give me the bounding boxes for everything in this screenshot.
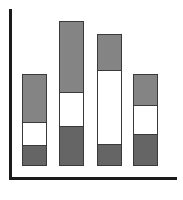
bar-3: [97, 34, 122, 166]
bar-segment-top: [23, 75, 46, 123]
bar-2: [59, 21, 84, 166]
bar-segment-top: [98, 35, 121, 71]
bar-1: [22, 74, 47, 166]
stacked-bar-chart: [0, 0, 183, 200]
bar-segment-top: [134, 75, 157, 106]
bar-segment-bottom: [134, 135, 157, 165]
y-axis: [9, 9, 12, 180]
x-axis: [9, 177, 177, 180]
bar-segment-middle: [134, 106, 157, 135]
bar-segment-top: [60, 22, 83, 93]
bar-segment-bottom: [98, 145, 121, 165]
bar-segment-bottom: [23, 146, 46, 165]
bar-segment-bottom: [60, 127, 83, 165]
bar-segment-middle: [60, 93, 83, 127]
bar-segment-middle: [23, 123, 46, 146]
bar-segment-middle: [98, 71, 121, 145]
bar-4: [133, 74, 158, 166]
